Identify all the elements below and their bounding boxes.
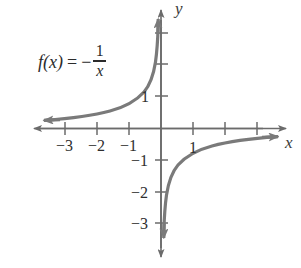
curve-right-branch <box>164 137 277 231</box>
function-equation-label: f(x) = − 1 x <box>38 44 106 80</box>
y-axis-label: y <box>175 0 183 17</box>
y-tick-label-pos1: 1 <box>141 89 149 105</box>
minus-sign: − <box>81 53 91 71</box>
y-tick-label-neg1: −1 <box>131 153 148 169</box>
fraction-numerator: 1 <box>94 43 106 60</box>
x-axis-label: x <box>285 134 293 151</box>
y-tick-label-neg2: −2 <box>131 185 148 201</box>
x-tick-label-pos1: 1 <box>189 140 197 156</box>
curve-left-arrow <box>44 120 60 121</box>
curve-right-arrow <box>262 137 278 138</box>
x-tick-label-neg3: −3 <box>56 138 73 154</box>
fraction: 1 x <box>93 43 106 79</box>
equals-sign: = <box>67 53 77 71</box>
y-tick-label-neg3: −3 <box>131 216 148 232</box>
x-tick-label-neg2: −2 <box>88 138 105 154</box>
graph-figure: f(x) = − 1 x y x −3 −2 −1 1 1 −1 −2 −3 <box>0 0 301 268</box>
function-plot <box>0 0 301 268</box>
fraction-denominator: x <box>94 62 105 79</box>
function-name: f(x) <box>38 53 63 71</box>
